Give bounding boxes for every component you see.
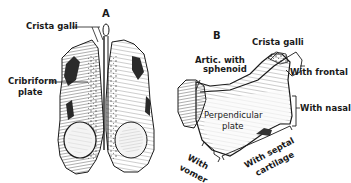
label-crista-galli-a: Crista galli [26, 22, 78, 31]
label-perpendicular-line1: Perpendicular [204, 111, 262, 120]
label-with-frontal: With frontal [290, 68, 348, 77]
label-artic-sphenoid-line2: sphenoid [203, 65, 247, 74]
label-with-nasal: With nasal [300, 104, 351, 113]
label-crista-galli-b: Crista galli [252, 38, 304, 47]
panel-b-letter: B [213, 30, 221, 41]
label-cribriform-line2: plate [18, 88, 43, 97]
panel-a-bone [50, 24, 154, 174]
label-perpendicular-line2: plate [222, 122, 244, 131]
panel-a-letter: A [102, 8, 110, 19]
label-cribriform-line1: Cribriform [8, 77, 57, 86]
